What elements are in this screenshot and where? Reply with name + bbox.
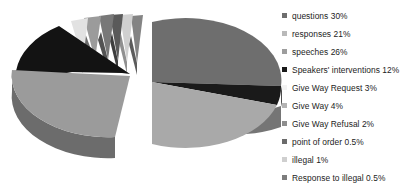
legend-item[interactable]: point of order 0.5% (282, 133, 419, 151)
pie-group-left-body (12, 70, 130, 158)
legend-swatch-icon (282, 49, 287, 54)
legend-item[interactable]: Give Way 4% (282, 97, 419, 115)
legend-item-label: point of order 0.5% (292, 133, 364, 151)
legend-item-label: questions 30% (292, 7, 348, 25)
legend-swatch-icon (282, 121, 287, 126)
pie-chart-legend: questions 30% responses 21% speeches 26%… (282, 0, 419, 187)
pie-group-right (152, 18, 282, 148)
legend-item[interactable]: questions 30% (282, 7, 419, 25)
legend-swatch-icon (282, 67, 287, 72)
legend-item-label: speeches 26% (292, 43, 348, 61)
legend-item-label: Speakers' interventions 12% (292, 61, 399, 79)
legend-item[interactable]: responses 21% (282, 25, 419, 43)
legend-item-label: Response to illegal 0.5% (292, 169, 385, 187)
legend-item-label: Give Way Refusal 2% (292, 115, 374, 133)
legend-swatch-icon (282, 31, 287, 36)
pie-slice-top-questions (152, 18, 281, 86)
legend-item-label: responses 21% (292, 25, 350, 43)
legend-swatch-icon (282, 103, 287, 108)
legend-swatch-icon (282, 13, 287, 18)
legend-item[interactable]: illegal 1% (282, 151, 419, 169)
legend-item[interactable]: Give Way Refusal 2% (282, 115, 419, 133)
legend-swatch-icon (282, 157, 287, 162)
legend-item-label: illegal 1% (292, 151, 328, 169)
legend-item[interactable]: Response to illegal 0.5% (282, 169, 419, 187)
pie-chart-plot-area (0, 0, 282, 190)
legend-item[interactable]: Give Way Request 3% (282, 79, 419, 97)
legend-item-label: Give Way 4% (292, 97, 343, 115)
pie-chart-svg (0, 0, 282, 190)
legend-item-label: Give Way Request 3% (292, 79, 377, 97)
legend-swatch-icon (282, 85, 287, 90)
legend-swatch-icon (282, 139, 287, 144)
legend-item[interactable]: Speakers' interventions 12% (282, 61, 419, 79)
legend-item[interactable]: speeches 26% (282, 43, 419, 61)
pie-chart-figure: questions 30% responses 21% speeches 26%… (0, 0, 419, 190)
legend-swatch-icon (282, 175, 287, 180)
